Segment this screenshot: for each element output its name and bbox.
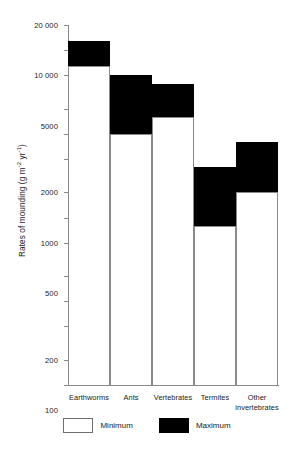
bar-group bbox=[152, 25, 194, 385]
y-axis-title-exponent-2: -1 bbox=[16, 147, 22, 153]
y-tick-label-100: 100 bbox=[45, 406, 58, 415]
y-tick-label-20000: 20 000 bbox=[34, 21, 58, 30]
y-tick-label-200: 200 bbox=[45, 355, 58, 364]
legend-label-minimum: Minimum bbox=[100, 421, 132, 430]
y-axis-title-exponent-1: -2 bbox=[16, 162, 22, 168]
legend-label-maximum: Maximum bbox=[196, 421, 231, 430]
y-tick-label-10000: 10 000 bbox=[34, 71, 58, 80]
bar-segment-maximum bbox=[236, 142, 278, 192]
bar-segment-minimum bbox=[110, 134, 152, 386]
y-tick-label-500: 500 bbox=[45, 289, 58, 298]
x-axis-label-other-invertebrates: Other invertebrates bbox=[228, 393, 286, 412]
bar-segment-minimum bbox=[152, 117, 194, 386]
bar-group bbox=[194, 25, 236, 385]
bar-segment-maximum bbox=[68, 41, 110, 66]
bar-group bbox=[236, 25, 278, 385]
bar-segment-minimum bbox=[68, 66, 110, 386]
y-axis-title: Rates of mounding (g m-2 yr-1) bbox=[18, 101, 27, 301]
bar-segment-maximum bbox=[194, 167, 236, 226]
y-axis-title-text: Rates of mounding (g m bbox=[18, 167, 27, 257]
bar-group bbox=[68, 25, 110, 385]
bar-segment-maximum bbox=[152, 84, 194, 117]
bar-group bbox=[110, 25, 152, 385]
y-tick-label-1000: 1000 bbox=[41, 238, 58, 247]
legend-item-minimum: Minimum bbox=[63, 418, 132, 433]
legend-swatch-maximum bbox=[159, 418, 189, 433]
legend-item-maximum: Maximum bbox=[159, 418, 231, 433]
y-tick-label-5000: 5000 bbox=[41, 121, 58, 130]
bar-segment-maximum bbox=[110, 75, 152, 134]
legend-swatch-minimum bbox=[63, 418, 93, 433]
y-axis-title-mid: yr bbox=[18, 152, 27, 161]
y-tick-label-2000: 2000 bbox=[41, 188, 58, 197]
chart-figure: Rates of mounding (g m-2 yr-1) 125102050… bbox=[0, 0, 294, 457]
bar-segment-minimum bbox=[236, 192, 278, 386]
y-axis-title-end: ) bbox=[18, 144, 27, 147]
chart-legend: Minimum Maximum bbox=[0, 418, 294, 433]
bar-segment-minimum bbox=[194, 226, 236, 386]
plot-area: 12510205010020050010002000500010 00020 0… bbox=[68, 25, 278, 385]
